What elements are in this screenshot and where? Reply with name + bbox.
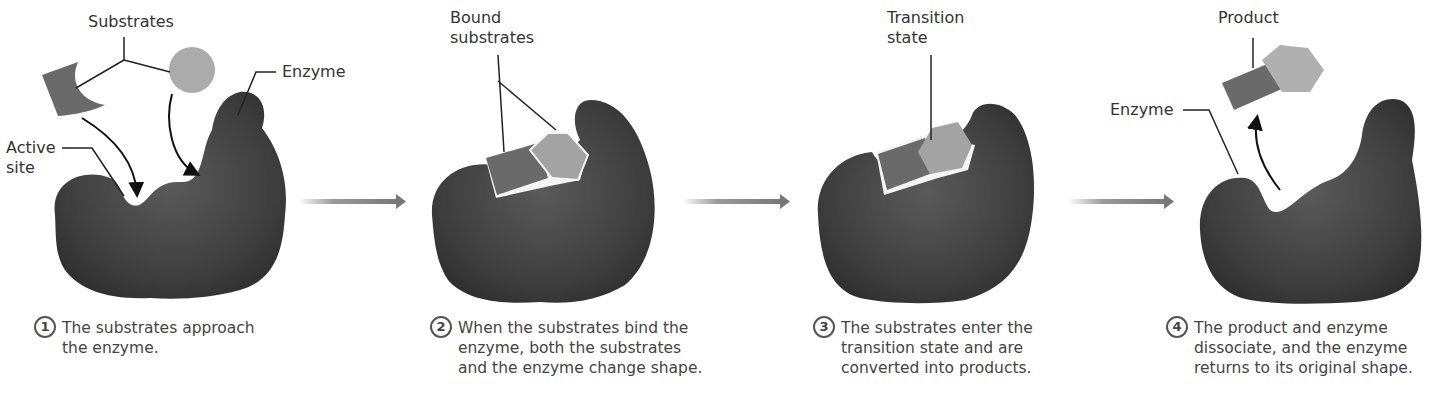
bound-substrates-label: Bound substrates <box>450 8 534 48</box>
step-number-badge: 1 <box>34 316 56 338</box>
panel-2-graphic <box>432 55 655 303</box>
step-arrow-1 <box>298 194 406 209</box>
panel-3-graphic <box>818 55 1034 303</box>
enzyme-shape <box>818 104 1034 303</box>
panel-1-graphic <box>42 37 286 299</box>
caption-step-3: 3 The substrates enter the transition st… <box>813 318 1033 378</box>
enzyme-shape <box>1200 99 1421 304</box>
caption-step-1: 1 The substrates approach the enzyme. <box>34 318 255 358</box>
enzyme-label-4: Enzyme <box>1110 100 1174 120</box>
active-site-label: Active site <box>6 138 56 178</box>
step-number-badge: 4 <box>1166 316 1188 338</box>
caption-text: The substrates approach the enzyme. <box>62 318 255 358</box>
product-label: Product <box>1218 8 1279 28</box>
substrate-dark-shape <box>42 62 105 116</box>
caption-step-2: 2 When the substrates bind the enzyme, b… <box>430 318 702 378</box>
step-arrow-3 <box>1068 194 1174 209</box>
enzyme-label: Enzyme <box>282 62 346 82</box>
step-number-badge: 3 <box>813 316 835 338</box>
panel-4-graphic <box>1183 38 1421 304</box>
enzyme-shape <box>432 100 655 303</box>
caption-text: The substrates enter the transition stat… <box>841 318 1033 378</box>
step-arrow-2 <box>682 194 790 209</box>
caption-step-4: 4 The product and enzyme dissociate, and… <box>1166 318 1413 378</box>
transition-state-label: Transition state <box>887 8 964 48</box>
substrate-light-shape <box>169 47 215 93</box>
substrates-label: Substrates <box>88 12 174 32</box>
step-number-badge: 2 <box>430 316 452 338</box>
caption-text: When the substrates bind the enzyme, bot… <box>458 318 702 378</box>
caption-text: The product and enzyme dissociate, and t… <box>1194 318 1413 378</box>
